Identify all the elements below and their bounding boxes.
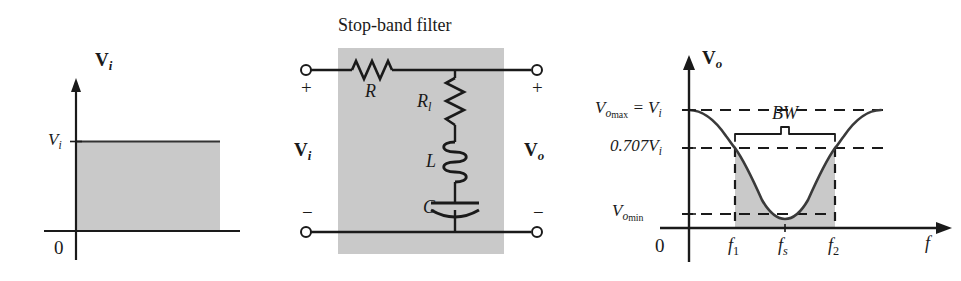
circuit-input-label: Vi: [294, 140, 311, 163]
x-tick-fs: fs: [778, 236, 788, 257]
bandwidth-label: BW: [772, 104, 798, 122]
left-y-axis-arrow: [71, 78, 81, 92]
right-x-axis-arrow: [936, 222, 952, 234]
output-minus-sign: −: [533, 203, 544, 222]
circuit-title: Stop-band filter: [338, 16, 451, 34]
right-x-axis-label: f: [925, 234, 930, 252]
right-y-axis-arrow: [683, 55, 695, 70]
bandwidth-brace: [735, 127, 835, 141]
resistor-Rl-label: Rl: [417, 92, 431, 113]
capacitor-C-label: C: [423, 198, 435, 216]
output-terminal-minus: [532, 227, 542, 237]
stopband-shaded-region: [735, 148, 835, 228]
x-tick-f1: f1: [728, 236, 739, 257]
x-tick-f2: f2: [828, 236, 839, 257]
circuit-output-label: Vo: [524, 140, 544, 163]
output-terminal-plus: [532, 65, 542, 75]
input-terminal-minus: [301, 227, 311, 237]
input-terminal-plus: [301, 65, 311, 75]
half-power-label: 0.707Vi: [610, 137, 662, 157]
right-y-axis-label: Vo: [702, 48, 722, 71]
left-vi-tick-label: Vi: [48, 131, 62, 151]
output-plus-sign: +: [532, 78, 543, 97]
resistor-R-label: R: [365, 82, 376, 100]
left-origin-label: 0: [54, 238, 64, 257]
right-origin-label: 0: [655, 236, 665, 255]
input-minus-sign: −: [302, 203, 313, 222]
vomin-label: Vomin: [612, 202, 644, 223]
vomax-label: Vomax = Vi: [595, 99, 662, 120]
left-y-axis-label: Vi: [95, 50, 112, 73]
input-plus-sign: +: [301, 78, 312, 97]
figure-stop-band-filter: Vi Vi 0: [0, 0, 961, 281]
input-shaded-region: [76, 141, 220, 231]
inductor-L-label: L: [426, 152, 436, 170]
